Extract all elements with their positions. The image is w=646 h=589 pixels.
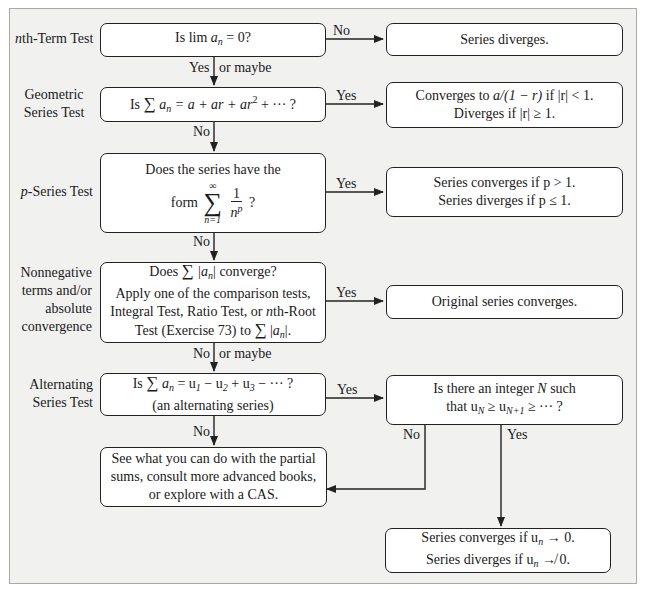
node-decreasing-question: Is there an integer N such that uN ≥ uN+…	[386, 375, 623, 425]
edge-label-q1-maybe: or maybe	[219, 60, 271, 76]
edge-label-q5-yes: Yes	[337, 382, 357, 398]
node-partial-sums-advice: See what you can do with the partial sum…	[100, 447, 327, 507]
edge-label-q2-no: No	[193, 124, 210, 140]
label-nonnegative-absolute: Nonnegativeterms and/or absoluteconverge…	[12, 264, 92, 336]
node-alternating-result: Series converges if un → 0. Series diver…	[385, 528, 611, 573]
edge-label-q4-maybe: or maybe	[219, 346, 271, 362]
edge-label-q1-no: No	[333, 23, 350, 39]
label-p-series-test: p-Series Test	[15, 183, 93, 201]
label-alternating-series-test: AlternatingSeries Test	[15, 376, 93, 412]
node-p-series-result: Series converges if p > 1. Series diverg…	[386, 167, 623, 217]
edge-label-q3-no: No	[193, 234, 210, 250]
node-series-diverges: Series diverges.	[386, 23, 623, 56]
edge-label-q3-yes: Yes	[336, 176, 356, 192]
node-geometric-result: Converges to a/(1 − r) if |r| < 1. Diver…	[386, 82, 623, 128]
node-nth-term-question: Is lim an = 0?	[100, 23, 326, 57]
node-p-series-question: Does the series have the form ∞ ∑ n=1 1 …	[100, 153, 326, 233]
edge-label-q4-no: No	[193, 346, 210, 362]
summation-symbol: ∞ ∑ n=1	[203, 181, 222, 225]
edge-label-r5-no: No	[403, 427, 420, 443]
fraction: 1 np	[231, 187, 243, 220]
edge-label-q5-no: No	[193, 424, 210, 440]
node-alternating-question: Is ∑ an = u1 − u2 + u3 − ··· ? (an alter…	[100, 373, 326, 416]
edge-label-q1-yes: Yes	[189, 60, 209, 76]
node-original-converges: Original series converges.	[386, 285, 623, 319]
edge-label-q2-yes: Yes	[336, 88, 356, 104]
label-nth-term-test: nth-Term Test	[15, 30, 93, 48]
edge-label-r5-yes: Yes	[507, 427, 527, 443]
node-absolute-convergence-question: Does ∑ |an| converge? Apply one of the c…	[100, 262, 326, 343]
edge-label-q4-yes: Yes	[336, 285, 356, 301]
node-geometric-question: Is ∑ an = a + ar + ar2 + ··· ?	[100, 87, 326, 122]
label-geometric-series-test: GeometricSeries Test	[15, 86, 93, 122]
